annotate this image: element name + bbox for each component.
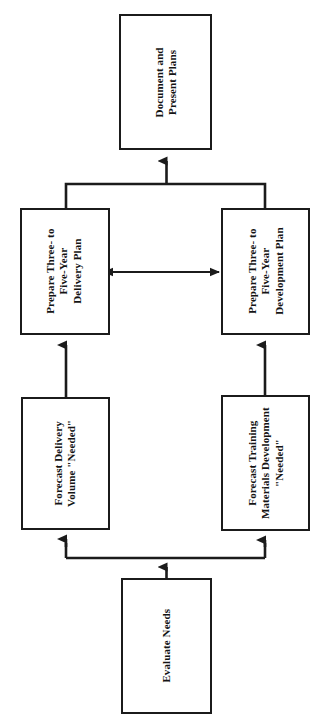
flowchart-canvas: Document and Present Plans Prepare Three… <box>0 0 329 720</box>
document-and-present-plans-label: Document and Present Plans <box>152 47 179 117</box>
forecast-training-materials-label: Forecast Training Materials Development … <box>245 407 285 519</box>
prepare-delivery-plan-label: Prepare Three- to Five-Year Delivery Pla… <box>45 229 85 314</box>
forecast-junction-bar <box>66 543 265 558</box>
prepare-development-plan-label: Prepare Three- to Five-Year Development … <box>245 228 285 315</box>
document-and-present-plans-box[interactable]: Document and Present Plans <box>119 14 212 150</box>
connector-prepare-plans-merge-to-document-present-plans <box>66 161 265 208</box>
evaluate-needs-box[interactable]: Evaluate Needs <box>121 578 212 714</box>
forecast-delivery-volume-label: Forecast Delivery Volume "Needed" <box>52 420 79 507</box>
prepare-three-to-five-year-delivery-plan-box[interactable]: Prepare Three- to Five-Year Delivery Pla… <box>20 208 110 335</box>
prepare-three-to-five-year-development-plan-box[interactable]: Prepare Three- to Five-Year Development … <box>221 208 310 335</box>
forecast-delivery-volume-needed-box[interactable]: Forecast Delivery Volume "Needed" <box>21 397 110 530</box>
evaluate-needs-label: Evaluate Needs <box>160 609 173 683</box>
forecast-training-materials-development-needed-box[interactable]: Forecast Training Materials Development … <box>221 395 310 531</box>
